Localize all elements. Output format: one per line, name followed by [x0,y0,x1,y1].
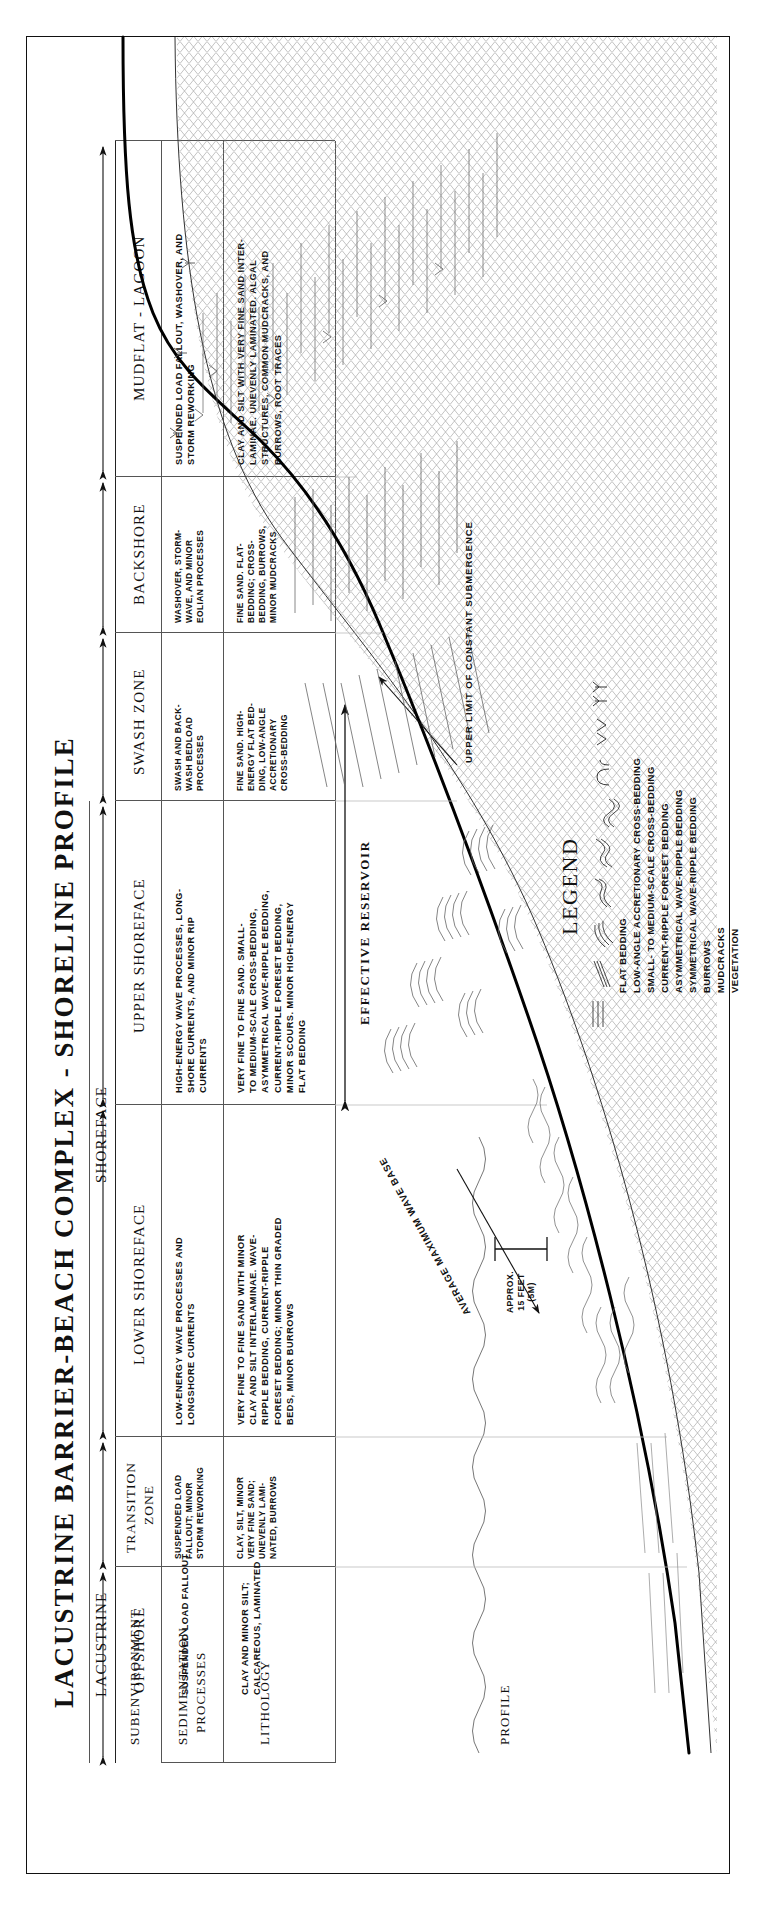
legend-title: LEGEND [557,837,583,935]
legend-label-symmetrical-wave-ripple-bedding: SYMMETRICAL WAVE-RIPPLE BEDDING [687,797,698,993]
figure-page: LACUSTRINE BARRIER-BEACH COMPLEX - SHORE… [0,0,763,1906]
landscape-canvas: LACUSTRINE BARRIER-BEACH COMPLEX - SHORE… [27,37,729,1873]
annotation-effective-reservoir: EFFECTIVE RESERVOIR [357,840,373,1025]
figure-plate-border: LACUSTRINE BARRIER-BEACH COMPLEX - SHORE… [26,36,730,1874]
legend-label-low-angle-accretionary-cross-bedding: LOW-ANGLE ACCRETIONARY CROSS-BEDDING [631,758,642,993]
legend-label-vegetation: VEGETATION [729,928,740,993]
annotation-upper-limit-submergence: UPPER LIMIT OF CONSTANT SUBMERGENCE [463,521,474,763]
legend-label-small-to-medium-scale-cross-bedding: SMALL- TO MEDIUM-SCALE CROSS-BEDDING [645,766,656,993]
legend-label-burrows: BURROWS [701,940,712,993]
legend-label-current-ripple-foreset-bedding: CURRENT-RIPPLE FORESET BEDDING [659,803,670,993]
legend-label-mudcracks: MUDCRACKS [715,927,726,993]
scale-bar-caption: APPROX. 15 FEET (5M) [505,1259,537,1325]
legend-label-flat-bedding: FLAT BEDDING [617,918,628,993]
legend-label-asymmetrical-wave-ripple-bedding: ASYMMETRICAL WAVE-RIPPLE BEDDING [673,789,684,993]
